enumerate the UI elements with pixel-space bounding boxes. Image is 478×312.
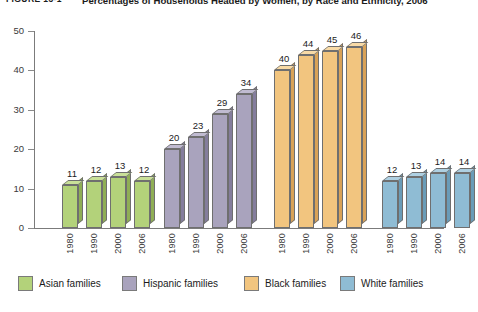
y-axis-tick-label: 20	[0, 143, 24, 154]
y-axis-tick	[28, 228, 34, 229]
bar-value-label: 14	[427, 156, 453, 167]
bar-side-face	[204, 129, 209, 224]
bar-value-label: 12	[83, 164, 109, 175]
bar-group-hispanic: 20232934	[164, 31, 260, 228]
bar-value-label: 40	[271, 53, 297, 64]
bar-side-face	[102, 173, 107, 224]
bar-front-face	[212, 114, 228, 228]
x-axis-tick-label: 1980	[277, 233, 287, 254]
bar[interactable]	[236, 94, 252, 228]
bar[interactable]	[274, 70, 290, 228]
bar-value-label: 12	[131, 164, 157, 175]
figure-number: FIGURE 13-1	[6, 0, 62, 4]
y-axis-tick-label: 0	[0, 222, 24, 233]
bar-side-face	[362, 39, 367, 224]
bar-front-face	[110, 177, 126, 228]
y-axis-tick-label: 30	[0, 104, 24, 115]
bar[interactable]	[406, 177, 422, 228]
x-axis-tick-label: 1980	[65, 233, 75, 254]
bar-value-label: 29	[209, 97, 235, 108]
legend-label: Hispanic families	[143, 278, 218, 289]
legend-item-black[interactable]: Black families	[244, 276, 326, 291]
x-axis-tick-label: 1980	[385, 233, 395, 254]
chart-legend: Asian familiesHispanic familiesBlack fam…	[0, 276, 450, 302]
legend-label: Asian families	[39, 278, 101, 289]
x-axis-tick-label: 1990	[191, 233, 201, 254]
bar-side-face	[446, 165, 451, 224]
legend-swatch-icon	[122, 276, 137, 291]
legend-item-hispanic[interactable]: Hispanic families	[122, 276, 218, 291]
x-axis-tick-label: 1990	[89, 233, 99, 254]
bar-front-face	[382, 181, 398, 228]
bar[interactable]	[188, 137, 204, 228]
bar-side-face	[126, 169, 131, 224]
bar-value-label: 34	[233, 77, 259, 88]
x-axis-tick-label: 2006	[349, 233, 359, 254]
bar-side-face	[338, 43, 343, 224]
x-axis-tick-label: 1990	[409, 233, 419, 254]
bar-value-label: 45	[319, 34, 345, 45]
x-axis-tick-label: 2000	[433, 233, 443, 254]
bar[interactable]	[322, 51, 338, 228]
bar-side-face	[470, 165, 475, 224]
bar-front-face	[454, 173, 470, 228]
bar-front-face	[188, 137, 204, 228]
bar-side-face	[290, 62, 295, 224]
bar-front-face	[430, 173, 446, 228]
bar[interactable]	[430, 173, 446, 228]
bar-value-label: 11	[59, 168, 85, 179]
bar[interactable]	[86, 181, 102, 228]
x-axis-tick-label: 1990	[301, 233, 311, 254]
legend-label: Black families	[265, 278, 326, 289]
bar-side-face	[314, 47, 319, 224]
bar[interactable]	[110, 177, 126, 228]
bar-side-face	[252, 86, 257, 224]
x-axis-tick-label: 2000	[113, 233, 123, 254]
bar-value-label: 13	[107, 160, 133, 171]
legend-item-asian[interactable]: Asian families	[18, 276, 101, 291]
x-axis-tick-label: 2000	[325, 233, 335, 254]
bar[interactable]	[212, 114, 228, 228]
bar-front-face	[406, 177, 422, 228]
bar-side-face	[398, 173, 403, 224]
bar-front-face	[134, 181, 150, 228]
legend-swatch-icon	[340, 276, 355, 291]
bar-front-face	[346, 47, 362, 228]
figure-header: FIGURE 13-1 Percentages of Households He…	[0, 0, 450, 22]
legend-swatch-icon	[244, 276, 259, 291]
legend-item-white[interactable]: White families	[340, 276, 423, 291]
bar-front-face	[298, 55, 314, 228]
bar-front-face	[86, 181, 102, 228]
bar[interactable]	[62, 185, 78, 228]
bar-front-face	[164, 149, 180, 228]
bar-side-face	[422, 169, 427, 224]
bar-value-label: 23	[185, 120, 211, 131]
plot-area: 11121312202329344044454612131414	[34, 31, 444, 228]
bar-group-asian: 11121312	[62, 31, 158, 228]
bar[interactable]	[454, 173, 470, 228]
bar-side-face	[180, 141, 185, 224]
bar[interactable]	[164, 149, 180, 228]
bar-front-face	[322, 51, 338, 228]
bar-front-face	[274, 70, 290, 228]
bar[interactable]	[346, 47, 362, 228]
figure-title: Percentages of Households Headed by Wome…	[82, 0, 442, 8]
bar-front-face	[62, 185, 78, 228]
bar-front-face	[236, 94, 252, 228]
bar-group-white: 12131414	[382, 31, 478, 228]
bar[interactable]	[298, 55, 314, 228]
bar[interactable]	[134, 181, 150, 228]
bar-value-label: 20	[161, 132, 187, 143]
x-axis-tick-label: 2006	[457, 233, 467, 254]
legend-swatch-icon	[18, 276, 33, 291]
bar[interactable]	[382, 181, 398, 228]
x-axis-tick-label: 2006	[137, 233, 147, 254]
x-axis-tick-label: 1980	[167, 233, 177, 254]
x-axis-line	[34, 228, 444, 229]
y-axis-tick-label: 50	[0, 25, 24, 36]
x-axis-tick-label: 2006	[239, 233, 249, 254]
y-axis-tick-label: 40	[0, 64, 24, 75]
bar-value-label: 14	[451, 156, 477, 167]
bar-value-label: 46	[343, 30, 369, 41]
